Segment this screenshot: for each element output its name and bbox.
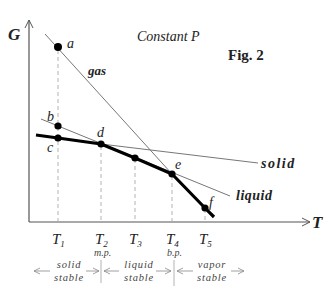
point-t3 <box>131 154 138 161</box>
boiling-point-note: b.p. <box>167 247 182 258</box>
solid-stable-line2: stable <box>54 272 84 283</box>
gibbs-energy-diagram: G T Constant P Fig. 2 gas solid liquid a… <box>0 0 326 297</box>
point-d <box>97 140 104 147</box>
condition-label: Constant P <box>137 29 200 44</box>
point-f-label: f <box>209 195 215 210</box>
liquid-stable-line1: liquid <box>124 259 153 270</box>
solid-stable-line1: solid <box>57 259 81 270</box>
gas-label: gas <box>87 63 106 78</box>
vapor-stable-line2: stable <box>197 272 227 283</box>
melting-point-note: m.p. <box>94 247 111 258</box>
vapor-stable-line1: vapor <box>198 259 227 270</box>
point-a <box>54 43 62 51</box>
tick-T3: T3 <box>129 231 142 249</box>
point-b-label: b <box>47 109 54 124</box>
point-f <box>201 204 208 211</box>
liquid-stable-line2: stable <box>124 272 154 283</box>
point-c <box>54 134 61 141</box>
point-a-label: a <box>67 36 74 51</box>
figure-title: Fig. 2 <box>228 47 264 63</box>
tick-T5: T5 <box>199 231 212 249</box>
gas-curve <box>45 34 172 174</box>
point-d-label: d <box>97 125 105 140</box>
x-axis-label: T <box>312 213 323 232</box>
y-axis-label: G <box>8 25 21 44</box>
solid-label: solid <box>260 156 296 171</box>
point-b <box>54 122 61 129</box>
region-labels: solid stable liquid stable vapor stable <box>54 259 227 283</box>
tick-T1: T1 <box>52 231 65 249</box>
temperature-guides <box>58 50 205 222</box>
temperature-labels: T1 T2 T3 T4 T5 <box>52 231 212 249</box>
point-e-label: e <box>175 157 181 172</box>
point-c-label: c <box>47 140 54 155</box>
liquid-label: liquid <box>236 188 273 203</box>
